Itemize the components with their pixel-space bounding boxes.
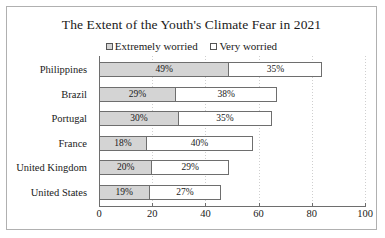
x-tick-label-100: 100 <box>345 208 385 219</box>
legend-item-extremely-worried: Extremely worried <box>106 39 198 52</box>
bar-row: 49%35% <box>0 62 385 77</box>
bar-row: 29%38% <box>0 87 385 102</box>
bar-row: 20%29% <box>0 160 385 175</box>
bar-segment-france-very-worried[interactable]: 40% <box>147 136 253 151</box>
legend-label-very-worried: Very worried <box>219 40 277 52</box>
legend-swatch-extremely-worried-icon <box>106 43 113 50</box>
bar-row: 30%35% <box>0 111 385 126</box>
chart-title: The Extent of the Youth's Climate Fear i… <box>7 17 376 33</box>
bar-segment-united-states-extremely-worried[interactable]: 19% <box>99 185 150 200</box>
legend-item-very-worried: Very worried <box>210 39 277 52</box>
x-tick-label-60: 60 <box>239 208 279 219</box>
bar-segment-brazil-extremely-worried[interactable]: 29% <box>99 87 176 102</box>
x-tick-label-20: 20 <box>132 208 172 219</box>
x-tick-100 <box>365 203 366 207</box>
legend-swatch-very-worried-icon <box>210 43 217 50</box>
bar-segment-united-kingdom-very-worried[interactable]: 29% <box>152 160 229 175</box>
x-tick-label-80: 80 <box>292 208 332 219</box>
bar-segment-brazil-very-worried[interactable]: 38% <box>176 87 277 102</box>
x-tick-label-40: 40 <box>185 208 225 219</box>
bar-segment-united-states-very-worried[interactable]: 27% <box>150 185 222 200</box>
chart-legend: Extremely worried Very worried <box>7 38 376 52</box>
x-tick-20 <box>152 203 153 207</box>
bar-segment-philippines-very-worried[interactable]: 35% <box>229 62 322 77</box>
legend-label-extremely-worried: Extremely worried <box>115 40 198 52</box>
x-tick-80 <box>312 203 313 207</box>
bar-segment-portugal-extremely-worried[interactable]: 30% <box>99 111 179 126</box>
bar-segment-france-extremely-worried[interactable]: 18% <box>99 136 147 151</box>
x-tick-40 <box>205 203 206 207</box>
bar-row: 19%27% <box>0 185 385 200</box>
bar-row: 18%40% <box>0 136 385 151</box>
x-tick-label-0: 0 <box>79 208 119 219</box>
bar-segment-portugal-very-worried[interactable]: 35% <box>179 111 272 126</box>
bar-segment-united-kingdom-extremely-worried[interactable]: 20% <box>99 160 152 175</box>
x-tick-60 <box>259 203 260 207</box>
x-tick-0 <box>99 203 100 207</box>
bar-segment-philippines-extremely-worried[interactable]: 49% <box>99 62 229 77</box>
